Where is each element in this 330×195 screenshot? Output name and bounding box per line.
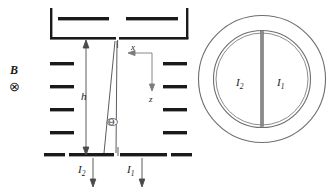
- bottom-bar-inner-left: [69, 153, 114, 156]
- vessel-inner-bar-right: [126, 17, 178, 20]
- vessel-left-wall: [50, 8, 52, 39]
- magnetic-field-label: B: [10, 64, 18, 76]
- electrode-bar-left-2: [50, 85, 74, 88]
- current-label-I2-subscript: 2: [82, 169, 86, 178]
- physics-figure: [0, 0, 330, 195]
- vessel-bottom-right: [119, 37, 188, 40]
- cross-section-view-group: [199, 16, 326, 143]
- vessel-outline: [50, 8, 188, 40]
- height-label: h: [81, 91, 87, 102]
- bottom-bar-outer-left: [44, 153, 65, 156]
- electrode-bar-right-1: [163, 62, 187, 65]
- height-arrow-up: [83, 40, 89, 48]
- vessel-inner-bars: [58, 17, 178, 20]
- circled-x-into-page-icon: ⊗: [9, 80, 20, 93]
- cross-section-current-label-I2-subscript: 2: [240, 82, 244, 91]
- cross-section-current-label-I1: I1: [277, 77, 284, 91]
- cross-section-divider: [261, 32, 264, 127]
- electrode-bar-right-2: [163, 85, 187, 88]
- cross-section-current-label-I1-subscript: 1: [281, 82, 285, 91]
- current-arrow-I1-head: [139, 179, 145, 187]
- vessel-right-wall: [186, 8, 188, 39]
- electrode-bars-left: [50, 62, 74, 134]
- coordinate-axes: [128, 50, 155, 91]
- bottom-bar-outer-right: [171, 153, 192, 156]
- vessel-inner-bar-left: [58, 17, 109, 20]
- electrode-bar-left-1: [50, 62, 74, 65]
- axis-z-label: z: [149, 95, 153, 104]
- current-label-I2: I2: [78, 164, 85, 178]
- slant-line-right: [116, 41, 117, 153]
- cross-section-current-label-I2: I2: [236, 77, 243, 91]
- angle-theta-label: Θ: [108, 118, 115, 127]
- electrode-bar-right-3: [163, 108, 187, 111]
- current-arrows: [90, 158, 145, 187]
- axis-z-arrowhead: [149, 84, 154, 91]
- current-arrow-I2-head: [90, 179, 96, 187]
- axis-x-label: x: [131, 43, 135, 52]
- slant-line-left: [104, 41, 115, 153]
- bottom-bar-inner-right: [120, 153, 167, 156]
- electrode-bars-right: [163, 62, 187, 134]
- side-view-group: [44, 8, 192, 187]
- electrode-bar-left-3: [50, 108, 74, 111]
- vessel-bottom-left: [50, 37, 116, 40]
- slanted-interface-lines: [104, 41, 117, 153]
- current-label-I1: I1: [127, 164, 134, 178]
- current-label-I1-subscript: 1: [131, 169, 135, 178]
- electrode-bar-left-4: [50, 131, 74, 134]
- electrode-bar-right-4: [163, 131, 187, 134]
